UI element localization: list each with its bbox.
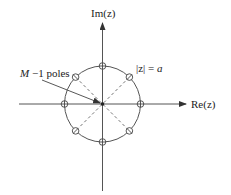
real-axis-label: Re(z) [191,98,216,111]
zero-marker-45deg [126,74,133,81]
axes [19,23,186,191]
imag-axis-label: Im(z) [91,7,116,20]
pole-annotation-label: M −1 poles [19,67,70,79]
z-plane-diagram: Im(z) Re(z) |z| = a M −1 poles [0,0,231,195]
zero-marker-135deg [72,74,79,81]
zero-marker-90deg [99,63,106,70]
zero-marker-270deg [99,139,106,146]
zero-marker-0deg [137,101,144,108]
origin-pole-marker [101,102,105,106]
zero-marker-225deg [72,128,79,135]
zero-marker-315deg [126,128,133,135]
zero-marker-180deg [61,101,68,108]
circle-label-a: a [157,62,163,74]
pole-annotation-rest: −1 poles [29,67,69,79]
circle-radius-label: |z| = a [136,62,163,74]
circle-label-lhs: |z| = [136,62,157,74]
